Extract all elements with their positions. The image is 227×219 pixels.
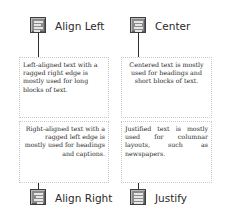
- justify-example-box: Justified text is mostly used for column…: [121, 121, 212, 183]
- align-left-icon: [30, 17, 46, 33]
- center-label: Center: [155, 20, 190, 32]
- align-left-connector: [38, 33, 39, 58]
- align-center-icon: [130, 17, 146, 33]
- align-left-example-box: Left-aligned text with a ragged right ed…: [19, 57, 109, 118]
- justify-label: Justify: [155, 192, 187, 204]
- align-left-label: Align Left: [55, 20, 104, 32]
- center-connector: [138, 33, 139, 58]
- align-right-icon: [30, 189, 46, 205]
- justify-icon: [130, 189, 146, 205]
- align-right-label: Align Right: [55, 192, 112, 204]
- align-right-example-box: Right-aligned text with a ragged left ed…: [19, 121, 109, 183]
- center-example-box: Centered text is mostly used for heading…: [121, 57, 212, 118]
